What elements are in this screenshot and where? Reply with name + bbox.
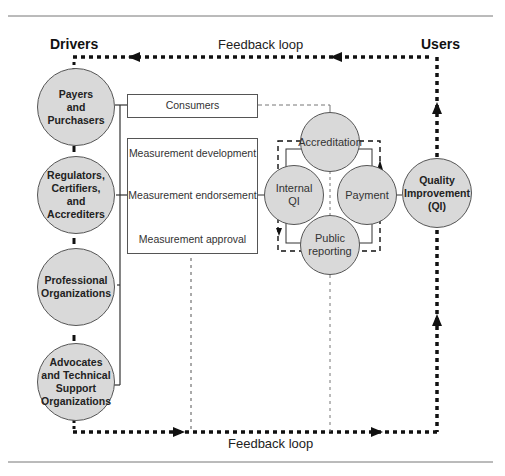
users-header: Users [421, 36, 460, 52]
drivers-header: Drivers [50, 36, 98, 52]
consumers-label: Consumers [127, 99, 258, 111]
use-public-reporting: Publicreporting [300, 215, 360, 275]
use-payment: Payment [337, 165, 397, 225]
feedback-loop-top-label: Feedback loop [218, 37, 303, 52]
measurement-development: Measurement development [127, 147, 258, 159]
driver-payers-purchasers: PayersandPurchasers [37, 68, 115, 146]
driver-advocates-technical-support: Advocatesand TechnicalSupportOrganizatio… [37, 343, 115, 421]
feedback-loop-bottom-label: Feedback loop [228, 436, 313, 451]
measurement-approval: Measurement approval [127, 233, 258, 245]
measurement-endorsement: Measurement endorsement [127, 189, 258, 201]
use-accreditation: Accreditation [300, 112, 360, 172]
driver-professional-organizations: ProfessionalOrganizations [37, 248, 115, 326]
quality-improvement-circle: QualityImprovement(QI) [402, 158, 472, 228]
driver-regulators-certifiers-accrediters: Regulators,Certifiers,andAccrediters [37, 156, 115, 234]
use-internal-qi: InternalQI [264, 165, 324, 225]
